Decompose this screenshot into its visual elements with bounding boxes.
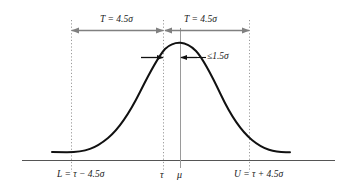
figure-canvas: [0, 0, 351, 193]
axis-label-lower-limit: L = τ − 4.5σ: [57, 170, 104, 180]
span-label-right: T = 4.5σ: [184, 15, 217, 25]
axis-label-mu: μ: [177, 170, 182, 180]
gap-label: ≤1.5σ: [207, 52, 229, 62]
distribution-curve: [52, 43, 290, 153]
axis-label-upper-limit: U = τ + 4.5σ: [234, 170, 283, 180]
normal-distribution-figure: T = 4.5σ T = 4.5σ ≤1.5σ L = τ − 4.5σ τ μ…: [0, 0, 351, 193]
span-label-left: T = 4.5σ: [100, 15, 133, 25]
axis-label-tau: τ: [160, 170, 164, 180]
